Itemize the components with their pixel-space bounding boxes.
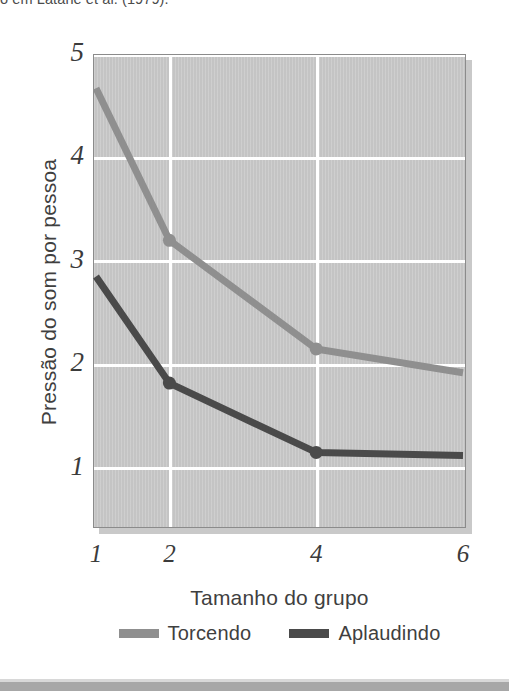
x-tick-label: 2 [149, 541, 189, 566]
chart-legend: TorcendoAplaudindo [93, 622, 466, 645]
data-point [310, 446, 323, 459]
legend-label: Torcendo [168, 622, 252, 645]
legend-swatch [289, 629, 329, 638]
x-axis-title: Tamanho do grupo [93, 586, 466, 610]
page-rule [0, 682, 509, 691]
y-axis-title: Pressão do som por pessoa [37, 127, 61, 457]
series-layer [93, 54, 466, 528]
y-tick-label: 5 [50, 39, 84, 66]
legend-label: Aplaudindo [338, 622, 440, 645]
x-tick-label: 6 [443, 541, 483, 566]
legend-item: Torcendo [119, 622, 252, 645]
data-point [163, 234, 176, 247]
y-tick-label: 1 [50, 453, 84, 480]
data-point [310, 342, 323, 355]
series-line-torcendo [96, 88, 463, 373]
legend-item: Aplaudindo [289, 622, 440, 645]
data-point [163, 377, 176, 390]
x-tick-label: 1 [76, 541, 116, 566]
legend-swatch [119, 629, 159, 638]
x-tick-label: 4 [296, 541, 336, 566]
line-chart-figure: 12345 1246 Pressão do som por pessoa Tam… [0, 0, 509, 691]
